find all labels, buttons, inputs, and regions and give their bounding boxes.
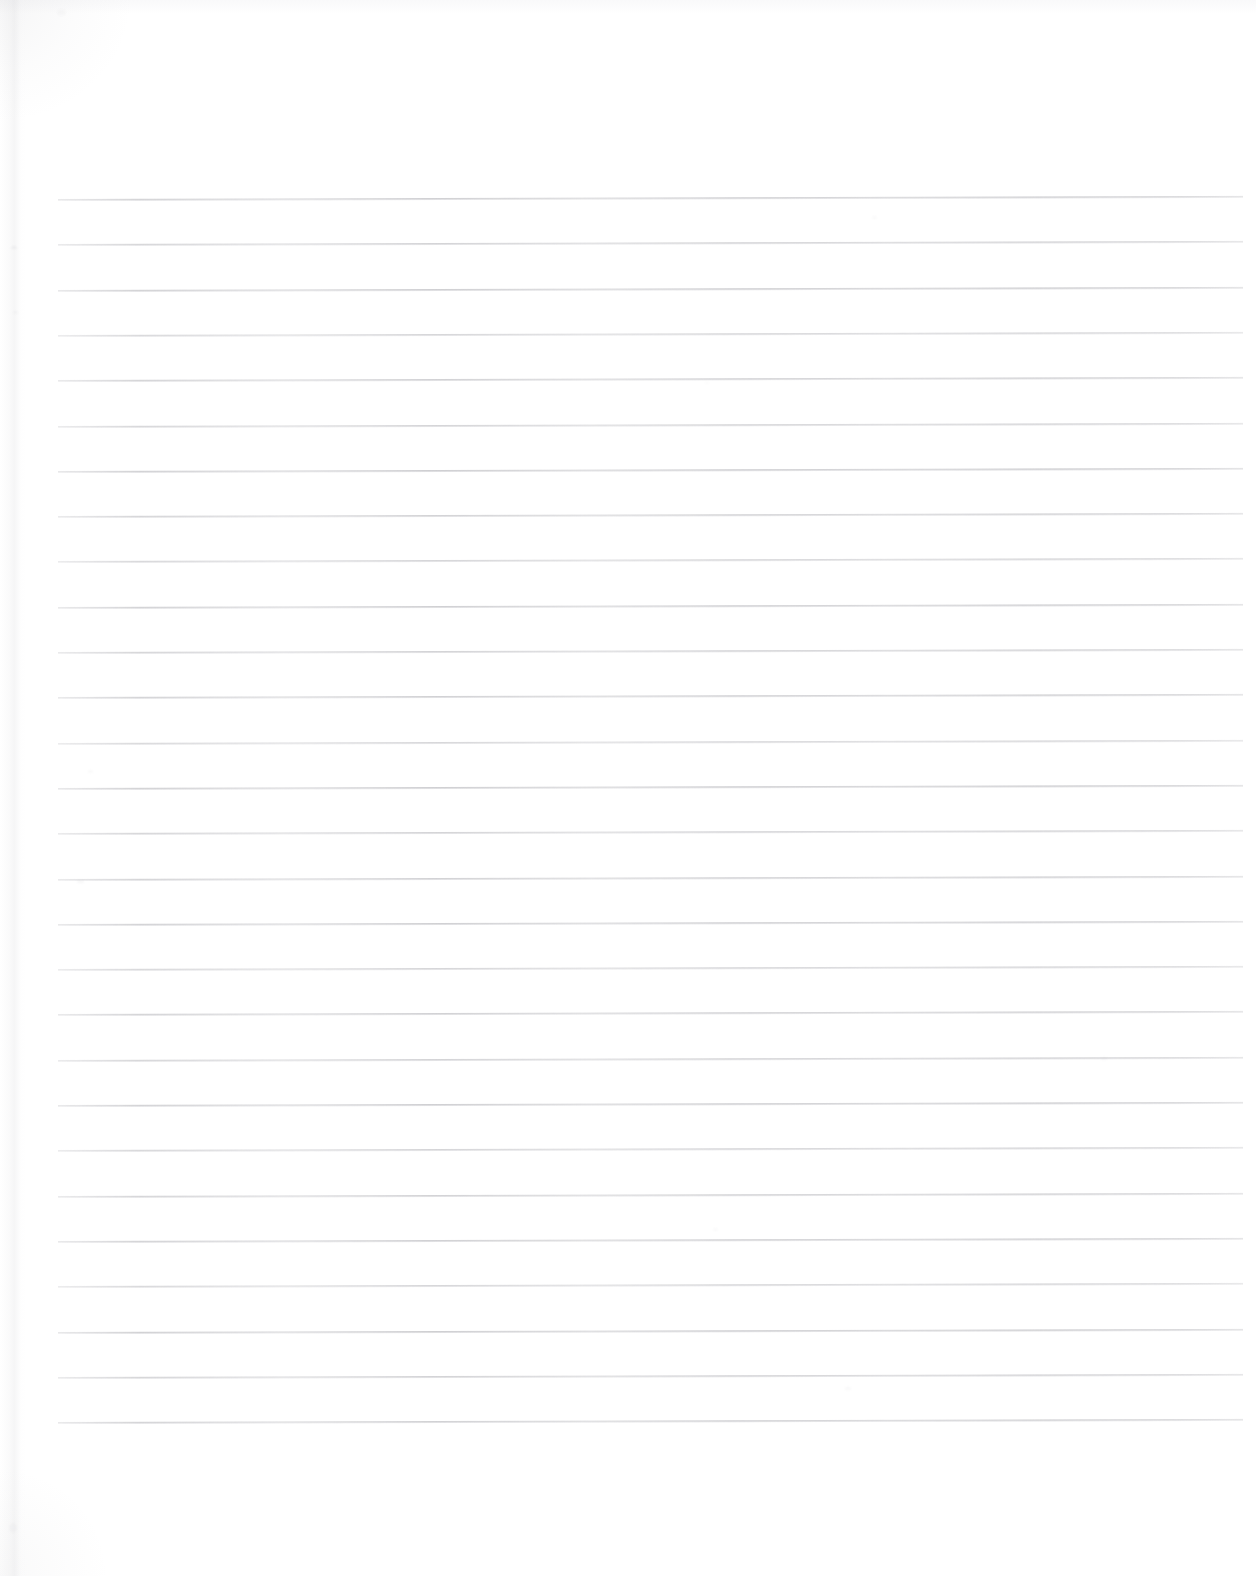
ruled-line bbox=[58, 422, 1243, 427]
ruled-line bbox=[58, 694, 1243, 699]
ruled-line bbox=[58, 1238, 1243, 1243]
ruled-line bbox=[58, 966, 1243, 971]
scanned-page bbox=[0, 0, 1256, 1576]
ruled-line bbox=[58, 1192, 1243, 1197]
ruled-line bbox=[58, 921, 1243, 926]
ruled-line bbox=[58, 377, 1243, 382]
ruled-line bbox=[58, 785, 1243, 790]
ruled-line bbox=[58, 1374, 1243, 1379]
ruled-line bbox=[58, 332, 1243, 337]
ruled-line bbox=[58, 513, 1243, 518]
ruled-line bbox=[58, 241, 1243, 246]
ruled-line bbox=[58, 604, 1243, 609]
ruled-line bbox=[58, 1147, 1243, 1152]
ruled-line bbox=[58, 875, 1243, 880]
ruled-line bbox=[58, 468, 1243, 473]
ruled-line bbox=[58, 1011, 1243, 1016]
ruled-line bbox=[58, 1419, 1243, 1424]
ruled-lines-group bbox=[0, 0, 1256, 1576]
ruled-line bbox=[58, 1328, 1243, 1333]
ruled-line bbox=[58, 196, 1243, 201]
ruled-line bbox=[58, 739, 1243, 744]
ruled-line bbox=[58, 1057, 1243, 1062]
ruled-line bbox=[58, 649, 1243, 654]
ruled-line bbox=[58, 830, 1243, 835]
ruled-line bbox=[58, 558, 1243, 563]
ruled-line bbox=[58, 1102, 1243, 1107]
ruled-line bbox=[58, 286, 1243, 291]
ruled-line bbox=[58, 1283, 1243, 1288]
